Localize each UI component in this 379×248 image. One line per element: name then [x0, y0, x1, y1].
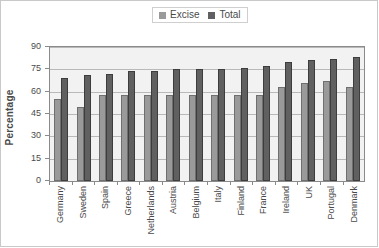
x-axis-tick-mark: [49, 182, 50, 185]
legend-swatch-total: [208, 12, 215, 19]
bar-excise: [234, 95, 241, 181]
x-axis-tick-label: Sweden: [72, 184, 95, 246]
x-axis-tick-label: Belgium: [184, 184, 207, 246]
x-axis-tick-label: Ireland: [275, 184, 298, 246]
x-axis-tick-label-text: Austria: [169, 186, 178, 214]
x-axis-tick-mark: [343, 182, 344, 185]
chart-legend: Excise Total: [152, 7, 248, 23]
bar-total: [106, 74, 113, 181]
x-axis-tick-label-text: France: [259, 186, 268, 214]
bar-excise: [54, 99, 61, 181]
bar-excise: [278, 87, 285, 181]
bar-group: [319, 47, 341, 181]
bar-group: [140, 47, 162, 181]
y-axis-tick-label: 0: [1, 176, 41, 185]
bar-total: [173, 69, 180, 181]
x-axis-tick-mark: [72, 182, 73, 185]
bar-excise: [77, 107, 84, 181]
x-axis-tick-mark: [230, 182, 231, 185]
x-axis-tick-label: Netherlands: [139, 184, 162, 246]
x-axis-tick-mark: [184, 182, 185, 185]
x-axis-tick-mark: [297, 182, 298, 185]
x-axis-tick-label: Austria: [162, 184, 185, 246]
x-axis-tick-label: UK: [297, 184, 320, 246]
bar-excise: [166, 95, 173, 181]
x-axis-tick-label: Finland: [230, 184, 253, 246]
bar-total: [285, 62, 292, 181]
bar-total: [353, 57, 360, 181]
x-axis-tick-mark: [275, 182, 276, 185]
chart-container: Excise Total Percentage 0153045607590 Ge…: [0, 0, 378, 247]
bar-groups: [50, 47, 364, 181]
bar-excise: [144, 95, 151, 181]
x-axis-tick-label-text: UK: [304, 186, 313, 199]
x-axis-tick-label-text: Sweden: [78, 186, 87, 219]
bar-group: [252, 47, 274, 181]
y-axis-tick-label: 60: [1, 87, 41, 96]
bar-total: [241, 68, 248, 181]
legend-item-excise: Excise: [159, 10, 199, 20]
bar-total: [151, 71, 158, 181]
bar-excise: [256, 95, 263, 181]
bar-total: [218, 69, 225, 181]
legend-label-total: Total: [219, 10, 240, 20]
x-axis-tick-label: Germany: [49, 184, 72, 246]
bar-total: [196, 69, 203, 181]
x-axis-tick-label-text: Germany: [56, 186, 65, 223]
x-axis-tick-mark: [117, 182, 118, 185]
bar-group: [297, 47, 319, 181]
plot-area: [49, 46, 365, 182]
bar-total: [84, 75, 91, 181]
bar-group: [162, 47, 184, 181]
y-axis-tick-label: 75: [1, 64, 41, 73]
x-axis-tick-labels: GermanySwedenSpainGreeceNetherlandsAustr…: [49, 184, 365, 246]
x-axis-tick-mark: [162, 182, 163, 185]
x-axis-tick-mark: [94, 182, 95, 185]
x-axis-tick-label-text: Portugal: [327, 186, 336, 220]
bar-excise: [189, 95, 196, 181]
x-axis-tick-label-text: Ireland: [282, 186, 291, 214]
y-axis-tick-label: 15: [1, 154, 41, 163]
bar-total: [61, 78, 68, 181]
y-axis-tick-label: 45: [1, 109, 41, 118]
bar-group: [117, 47, 139, 181]
x-axis-tick-label-text: Finland: [236, 186, 245, 216]
x-axis-tick-mark: [139, 182, 140, 185]
legend-label-excise: Excise: [170, 10, 199, 20]
x-axis-tick-label-text: Spain: [101, 186, 110, 209]
bar-group: [274, 47, 296, 181]
x-axis-tick-label-text: Belgium: [191, 186, 200, 219]
bar-total: [330, 59, 337, 181]
x-axis-tick-mark: [207, 182, 208, 185]
bar-excise: [301, 83, 308, 181]
y-axis-tick-label: 30: [1, 131, 41, 140]
bar-total: [128, 71, 135, 181]
x-axis-tick-label-text: Netherlands: [146, 186, 155, 235]
bar-excise: [99, 95, 106, 181]
bar-excise: [323, 81, 330, 181]
y-axis-tick-label: 90: [1, 42, 41, 51]
bar-group: [229, 47, 251, 181]
legend-swatch-excise: [159, 12, 166, 19]
bar-group: [50, 47, 72, 181]
bar-excise: [121, 95, 128, 181]
bar-group: [72, 47, 94, 181]
legend-item-total: Total: [208, 10, 240, 20]
x-axis-tick-label-text: Denmark: [349, 186, 358, 223]
x-axis-tick-label: Spain: [94, 184, 117, 246]
x-axis-tick-label: Greece: [117, 184, 140, 246]
bar-group: [207, 47, 229, 181]
bar-excise: [211, 95, 218, 181]
x-axis-tick-mark: [252, 182, 253, 185]
bar-total: [263, 66, 270, 181]
bar-total: [308, 60, 315, 181]
x-axis-tick-mark: [320, 182, 321, 185]
bar-group: [341, 47, 363, 181]
x-axis-tick-label: France: [252, 184, 275, 246]
x-axis-tick-label: Denmark: [343, 184, 366, 246]
x-axis-tick-label-text: Greece: [124, 186, 133, 216]
bar-group: [95, 47, 117, 181]
x-axis-tick-label: Italy: [207, 184, 230, 246]
bar-excise: [346, 87, 353, 181]
bar-group: [185, 47, 207, 181]
